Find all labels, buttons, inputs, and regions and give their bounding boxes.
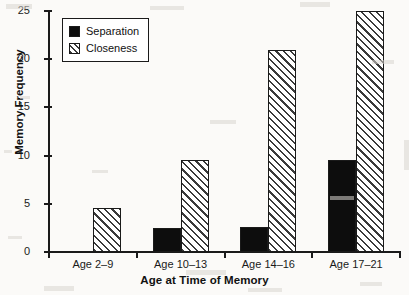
x-axis-separator-tick xyxy=(136,251,138,258)
bar-closeness-1 xyxy=(181,160,209,252)
legend-label-closeness: Closeness xyxy=(86,43,137,54)
y-axis-tick-label: 5 xyxy=(24,198,30,209)
x-axis-separator-tick xyxy=(224,251,226,258)
legend-label-separation: Separation xyxy=(86,26,139,37)
y-axis-title: Memory Frequency xyxy=(13,27,25,177)
legend-item-closeness: Closeness xyxy=(69,41,139,56)
legend-item-separation: Separation xyxy=(69,24,139,39)
y-axis-tick-label: 25 xyxy=(18,5,30,16)
bar-separation-0 xyxy=(65,251,93,253)
x-axis-separator-tick xyxy=(48,251,50,258)
x-axis-separator-tick xyxy=(399,251,401,258)
chart-legend: Separation Closeness xyxy=(62,18,149,62)
bar-separation-2 xyxy=(240,227,268,252)
x-axis-separator-tick xyxy=(311,251,313,258)
legend-swatch-separation-icon xyxy=(69,26,80,37)
bar-closeness-3 xyxy=(356,11,384,252)
bar-closeness-2 xyxy=(268,50,296,252)
bar-closeness-0 xyxy=(93,208,121,252)
x-axis-title: Age at Time of Memory xyxy=(0,274,409,286)
legend-swatch-closeness-icon xyxy=(69,43,80,54)
y-axis-tick-label: 0 xyxy=(24,246,30,257)
bar-separation-1 xyxy=(153,228,181,252)
x-axis-category-label: Age 17–21 xyxy=(296,258,409,270)
bar-separation-3 xyxy=(328,160,356,252)
bar-chart: 0510152025 Age 2–9Age 10–13Age 14–16Age … xyxy=(0,0,409,295)
